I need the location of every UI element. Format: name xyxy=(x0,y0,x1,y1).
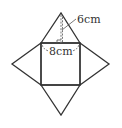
triangle-face-right xyxy=(80,43,109,85)
triangle-face-bottom xyxy=(41,85,80,115)
label-slant-height: 6cm xyxy=(77,13,101,26)
triangle-face-left xyxy=(12,43,41,85)
dimension-brace-left xyxy=(42,45,49,51)
dimension-brace-right xyxy=(72,45,79,51)
label-base-edge: 8cm xyxy=(49,45,73,58)
pyramid-net-diagram: 6cm 8cm xyxy=(0,0,122,128)
leader-line-6cm xyxy=(62,19,76,30)
